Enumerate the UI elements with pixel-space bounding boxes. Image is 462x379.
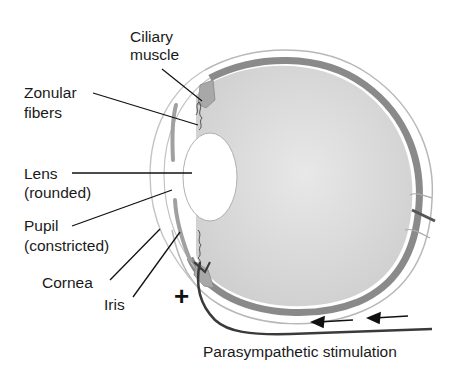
direction-arrows-icon [312, 313, 408, 327]
label-ciliary-muscle-line2: muscle [130, 46, 179, 64]
label-cornea: Cornea [42, 274, 93, 292]
plus-sign-icon: + [174, 283, 189, 309]
label-pupil-line1: Pupil [24, 217, 58, 235]
label-parasympathetic-stimulation: Parasympathetic stimulation [203, 343, 397, 361]
label-lens-line2: (rounded) [24, 184, 91, 202]
label-pupil-line2: (constricted) [24, 237, 109, 255]
label-iris: Iris [104, 296, 125, 314]
lens [183, 133, 237, 221]
label-zonular-fibers-line1: Zonular [24, 84, 77, 102]
label-zonular-fibers-line2: fibers [24, 104, 62, 122]
label-lens-line1: Lens [24, 165, 58, 183]
label-ciliary-muscle-line1: Ciliary [130, 28, 173, 46]
